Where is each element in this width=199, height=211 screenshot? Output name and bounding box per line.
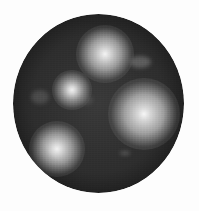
image-canvas [0,0,199,211]
film-grain [13,14,184,193]
dark-disc [13,14,184,193]
